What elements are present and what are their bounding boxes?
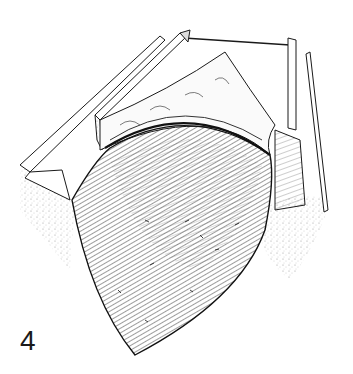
retractor-rod — [180, 30, 290, 45]
skin-right — [260, 196, 330, 280]
right-retractor — [275, 38, 328, 212]
surgical-illustration — [0, 0, 353, 374]
figure-number: 4 — [20, 327, 36, 355]
tissue-mass — [72, 126, 272, 355]
